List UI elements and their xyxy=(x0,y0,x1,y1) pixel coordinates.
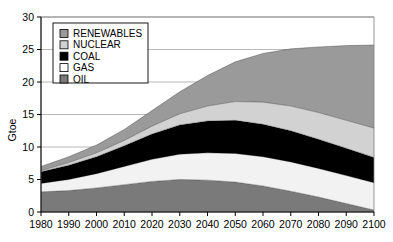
legend: RENEWABLESNUCLEARCOALGASOIL xyxy=(53,23,148,85)
legend-swatch-nuclear xyxy=(60,41,68,49)
legend-swatch-renewables xyxy=(60,29,68,37)
x-tick-label-2100: 2100 xyxy=(362,218,386,230)
y-tick-label-20: 20 xyxy=(22,76,34,88)
legend-swatch-coal xyxy=(60,52,68,60)
y-axis-title: Gtoe xyxy=(6,118,18,141)
y-tick-label-10: 10 xyxy=(22,141,34,153)
y-tick-label-15: 15 xyxy=(22,108,34,120)
legend-label-nuclear: NUCLEAR xyxy=(73,39,121,50)
x-tick-label-1990: 1990 xyxy=(57,218,81,230)
x-tick-label-2030: 2030 xyxy=(168,218,192,230)
x-tick-label-2020: 2020 xyxy=(140,218,164,230)
x-tick-label-2080: 2080 xyxy=(307,218,331,230)
x-tick-label-2040: 2040 xyxy=(196,218,220,230)
legend-label-oil: OIL xyxy=(73,74,90,85)
stacked-area-chart: 051015202530 198019902000201020202030204… xyxy=(0,0,393,242)
legend-swatch-gas xyxy=(60,64,68,72)
y-tick-label-30: 30 xyxy=(22,11,34,23)
x-tick-label-2000: 2000 xyxy=(85,218,109,230)
x-tick-label-2070: 2070 xyxy=(279,218,303,230)
y-tick-label-25: 25 xyxy=(22,43,34,55)
x-tick-label-2050: 2050 xyxy=(224,218,248,230)
chart-container: 051015202530 198019902000201020202030204… xyxy=(0,0,393,242)
legend-label-coal: COAL xyxy=(73,51,101,62)
legend-label-renewables: RENEWABLES xyxy=(73,28,142,39)
legend-swatch-oil xyxy=(60,75,68,83)
legend-label-gas: GAS xyxy=(73,62,94,73)
y-tick-label-0: 0 xyxy=(28,206,34,218)
x-tick-label-2010: 2010 xyxy=(113,218,137,230)
y-tick-label-5: 5 xyxy=(28,173,34,185)
x-tick-label-2060: 2060 xyxy=(251,218,275,230)
x-tick-label-2090: 2090 xyxy=(335,218,359,230)
x-tick-label-1980: 1980 xyxy=(29,218,53,230)
